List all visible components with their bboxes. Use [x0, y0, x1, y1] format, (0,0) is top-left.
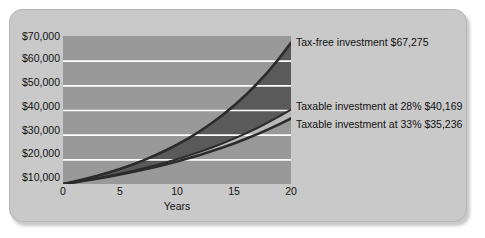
x-axis-title: Years	[63, 200, 291, 212]
x-tick-20: 20	[279, 186, 303, 197]
chart-figure: $70,000 $60,000 $50,000 $40,000 $30,000 …	[0, 0, 485, 238]
series-label-taxable-33: Taxable investment at 33% $35,236	[296, 118, 462, 130]
x-tick-10: 10	[165, 186, 189, 197]
y-tick-20000: $20,000	[2, 148, 60, 159]
y-tick-70000: $70,000	[2, 31, 60, 42]
series-label-taxable-28: Taxable investment at 28% $40,169	[296, 100, 462, 112]
y-tick-50000: $50,000	[2, 77, 60, 88]
y-tick-60000: $60,000	[2, 53, 60, 64]
plot-svg	[63, 36, 291, 184]
plot-area	[63, 36, 291, 184]
series-label-tax-free: Tax-free investment $67,275	[296, 36, 429, 48]
y-tick-40000: $40,000	[2, 101, 60, 112]
y-tick-30000: $30,000	[2, 125, 60, 136]
x-tick-15: 15	[222, 186, 246, 197]
y-tick-10000: $10,000	[2, 172, 60, 183]
x-tick-0: 0	[51, 186, 75, 197]
x-tick-5: 5	[108, 186, 132, 197]
y-axis-labels: $70,000 $60,000 $50,000 $40,000 $30,000 …	[0, 0, 60, 238]
